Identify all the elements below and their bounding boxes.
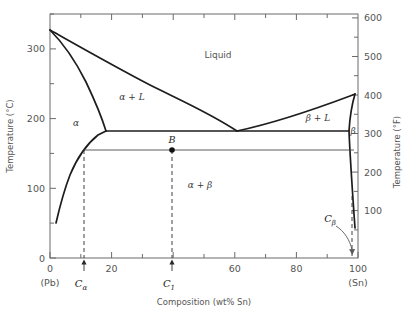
region-label-alpha-plus-beta: α + β xyxy=(188,180,213,190)
phase-diagram-figure: 0 100 200 300 Temperature (°C) 100 200 3… xyxy=(0,0,413,314)
left-axis-title: Temperature (°C) xyxy=(5,99,15,173)
right-tick-500: 500 xyxy=(364,51,382,62)
left-tick-100: 100 xyxy=(27,183,45,194)
right-axis-title: Temperature (°F) xyxy=(392,116,402,189)
bottom-tick-60: 60 xyxy=(229,263,241,274)
right-axis-tick-labels: 100 200 300 400 500 600 xyxy=(364,12,382,216)
bottom-tick-100: 100 xyxy=(349,263,367,274)
bottom-right-end-label: (Sn) xyxy=(348,277,367,288)
right-tick-200: 200 xyxy=(364,167,382,178)
c-alpha-annotation: Cα xyxy=(75,260,88,292)
right-tick-600: 600 xyxy=(364,12,382,23)
region-label-alpha-plus-liquid: α + L xyxy=(119,92,144,102)
region-label-liquid: Liquid xyxy=(204,50,231,60)
bottom-axis-tick-labels: 0 20 60 80 100 (Pb) (Sn) xyxy=(40,263,367,288)
bottom-tick-80: 80 xyxy=(290,263,302,274)
phase-diagram-svg: 0 100 200 300 Temperature (°C) 100 200 3… xyxy=(0,0,413,314)
right-tick-300: 300 xyxy=(364,128,382,139)
region-label-beta: β xyxy=(349,126,355,136)
bottom-left-end-label: (Pb) xyxy=(40,277,59,288)
c-alpha-label: Cα xyxy=(75,278,88,292)
c1-annotation: C1 xyxy=(163,260,175,292)
point-b-marker xyxy=(169,147,175,153)
left-axis-tick-labels: 0 100 200 300 xyxy=(27,43,45,263)
right-tick-100: 100 xyxy=(364,205,382,216)
bottom-tick-20: 20 xyxy=(106,263,118,274)
bottom-axis-title: Composition (wt% Sn) xyxy=(157,297,251,307)
region-label-beta-plus-liquid: β + L xyxy=(305,113,330,123)
region-label-alpha: α xyxy=(73,118,79,128)
left-tick-0: 0 xyxy=(39,253,45,264)
left-tick-300: 300 xyxy=(27,43,45,54)
left-tick-200: 200 xyxy=(27,113,45,124)
right-tick-400: 400 xyxy=(364,90,382,101)
bottom-tick-0: 0 xyxy=(47,263,53,274)
point-b-label: B xyxy=(168,134,176,145)
c1-label: C1 xyxy=(163,278,175,292)
